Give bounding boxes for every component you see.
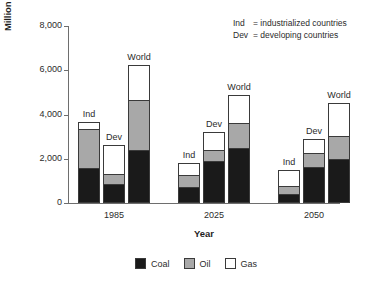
bar-1985-dev [103, 145, 125, 203]
bar-label: World [117, 52, 161, 62]
bar-2050-world [328, 103, 350, 203]
y-tick-label: 6,000 [22, 64, 62, 74]
bar-segment-coal [304, 168, 324, 202]
bar-segment-oil [129, 100, 149, 151]
chart-legend: CoalOilGas [135, 258, 257, 269]
legend-item-gas: Gas [225, 258, 258, 269]
bar-2050-dev [303, 139, 325, 203]
bar-segment-gas [304, 140, 324, 153]
bar-segment-oil [104, 174, 124, 185]
bar-label: Dev [192, 119, 236, 129]
bar-segment-gas [179, 164, 199, 175]
bar-label: Dev [292, 126, 336, 136]
y-tick-label: 8,000 [22, 20, 62, 30]
bar-segment-oil [179, 175, 199, 189]
bar-segment-gas [204, 133, 224, 150]
abbreviation-definition: = industrialized countries [253, 18, 347, 28]
abbreviation-row: Dev= developing countries [233, 30, 347, 42]
x-tick-label: 2025 [184, 210, 244, 220]
bar-segment-coal [179, 188, 199, 202]
bar-segment-oil [329, 136, 349, 160]
bar-segment-coal [104, 185, 124, 202]
stacked-bar-chart: Million tonnes of carbon per year 02,000… [0, 0, 390, 285]
bar-label: Ind [267, 157, 311, 167]
x-tick-label: 2050 [284, 210, 344, 220]
legend-item-oil: Oil [184, 258, 211, 269]
abbreviation-term: Ind [233, 18, 253, 30]
bar-segment-coal [229, 149, 249, 202]
x-axis-line [68, 203, 340, 204]
bar-segment-gas [104, 146, 124, 174]
bar-2025-dev [203, 132, 225, 203]
abbreviation-term: Dev [233, 30, 253, 42]
bar-label: Dev [92, 132, 136, 142]
bar-label: Ind [167, 150, 211, 160]
legend-swatch-coal [135, 258, 146, 269]
bar-label: World [217, 82, 261, 92]
bar-segment-coal [329, 160, 349, 202]
bar-2025-world [228, 95, 250, 203]
y-axis-title: Million tonnes of carbon per year [2, 0, 16, 44]
bar-segment-coal [79, 169, 99, 202]
legend-swatch-gas [225, 258, 236, 269]
x-axis-title: Year [68, 228, 340, 239]
abbreviation-key: Ind= industrialized countriesDev= develo… [233, 18, 347, 41]
x-tick-label: 1985 [84, 210, 144, 220]
bar-segment-gas [279, 171, 299, 186]
bar-segment-coal [129, 151, 149, 202]
bar-segment-oil [279, 186, 299, 196]
legend-swatch-oil [184, 258, 195, 269]
legend-label: Oil [200, 259, 211, 269]
legend-label: Coal [151, 259, 170, 269]
bar-segment-coal [279, 195, 299, 202]
y-tick-label: 0 [22, 197, 62, 207]
bar-2025-ind [178, 163, 200, 203]
y-tick-label: 4,000 [22, 109, 62, 119]
bar-segment-coal [204, 162, 224, 202]
y-tick-label: 2,000 [22, 153, 62, 163]
bar-2050-ind [278, 170, 300, 203]
bar-label: Ind [67, 109, 111, 119]
legend-label: Gas [241, 259, 258, 269]
bar-segment-gas [129, 66, 149, 100]
abbreviation-definition: = developing countries [253, 30, 338, 40]
bar-label: World [317, 90, 361, 100]
legend-item-coal: Coal [135, 258, 170, 269]
abbreviation-row: Ind= industrialized countries [233, 18, 347, 30]
